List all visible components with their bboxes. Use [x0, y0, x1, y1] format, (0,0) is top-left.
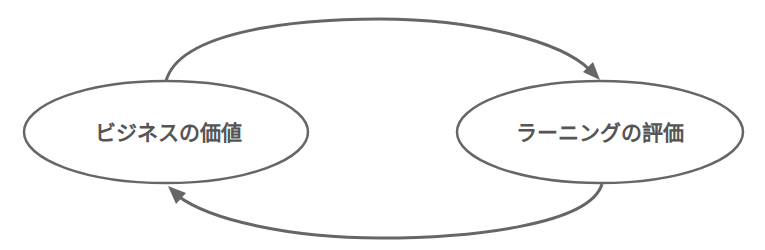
arrow-top-business-to-learning [166, 19, 590, 81]
node-learning-evaluation-label: ラーニングの評価 [516, 121, 684, 145]
node-business-value-label: ビジネスの価値 [95, 121, 242, 145]
arrow-bottom-learning-to-business [178, 184, 602, 238]
cycle-diagram: ビジネスの価値 ラーニングの評価 [0, 0, 765, 250]
